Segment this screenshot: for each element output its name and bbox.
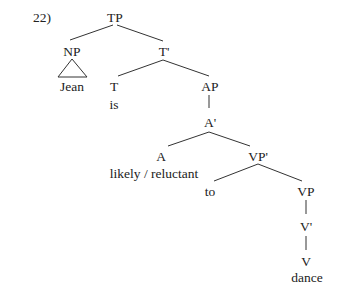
node-tp: TP [107, 10, 123, 25]
edge-vpbar-to [214, 164, 258, 181]
edge-abar-vpbar [209, 132, 250, 146]
node-ap: AP [201, 79, 218, 94]
leaf-jean: Jean [60, 79, 84, 94]
np-triangle-icon [58, 59, 87, 77]
node-v-bar: V' [300, 219, 312, 234]
node-a: A [156, 149, 166, 164]
leaf-likely-reluctant: likely / reluctant [110, 166, 198, 181]
edge-vpbar-vp [258, 164, 302, 181]
node-t: T [110, 79, 118, 94]
tree-edges [0, 0, 339, 300]
edge-tbar-t [118, 60, 163, 76]
leaf-dance: dance [291, 270, 322, 285]
edge-tbar-ap [163, 60, 209, 76]
node-np: NP [63, 44, 80, 59]
node-vp: VP [297, 184, 314, 199]
leaf-to: to [205, 184, 216, 199]
node-v: V [301, 254, 311, 269]
edge-tp-tbar [117, 25, 163, 41]
edge-tp-np [70, 25, 113, 40]
node-a-bar: A' [204, 115, 216, 130]
leaf-is: is [109, 97, 118, 112]
node-t-bar: T' [159, 44, 170, 59]
edge-abar-a [168, 132, 209, 146]
node-vp-bar: VP' [248, 149, 268, 164]
